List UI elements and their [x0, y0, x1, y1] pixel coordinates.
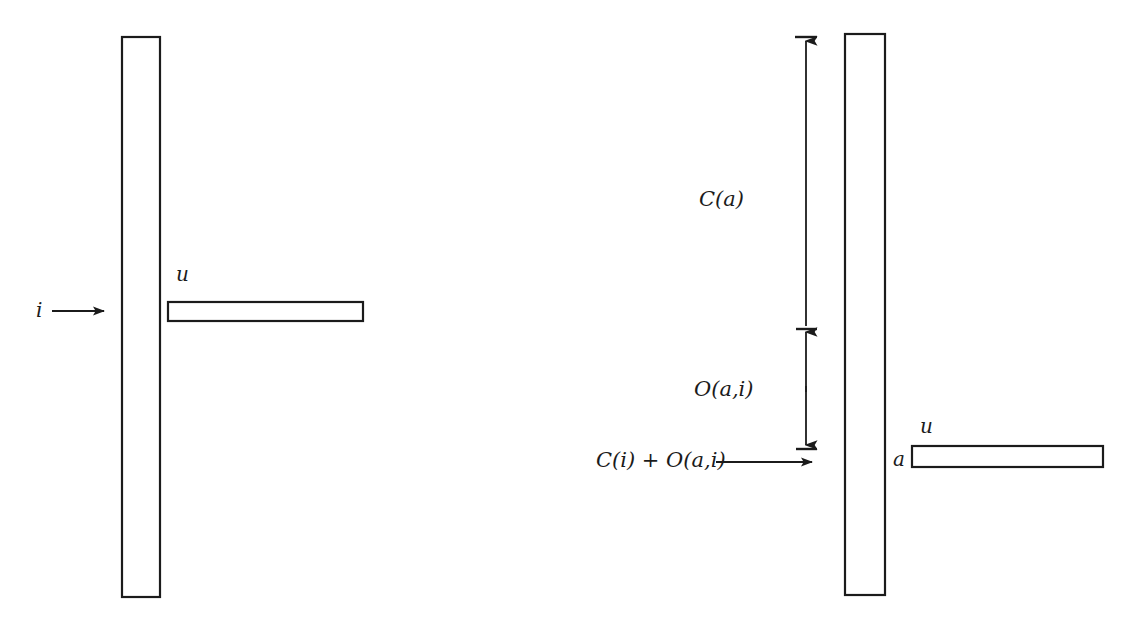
left-vertical-bar — [122, 37, 160, 597]
right-horizontal-bar — [912, 446, 1103, 467]
ca-measure-span — [795, 37, 817, 326]
right-panel — [716, 34, 1103, 595]
right-vertical-bar — [845, 34, 885, 595]
left-panel — [52, 37, 363, 597]
ci-oai-measure-label: C(i) + O(a,i) — [596, 450, 726, 471]
right-u-label: u — [920, 416, 933, 436]
right-a-label: a — [893, 449, 905, 469]
oai-measure-label: O(a,i) — [694, 379, 754, 400]
left-i-label: i — [36, 300, 42, 320]
oai-measure-span — [796, 332, 817, 449]
diagram-canvas — [0, 0, 1138, 621]
left-u-label: u — [176, 264, 189, 284]
left-horizontal-bar — [168, 302, 363, 321]
ca-measure-label: C(a) — [699, 189, 744, 210]
